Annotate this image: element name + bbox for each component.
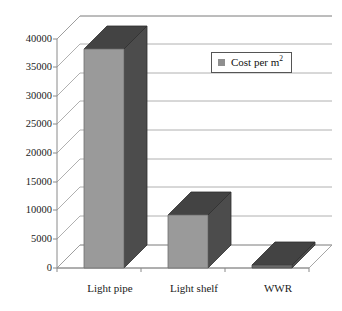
y-tick-label: 20000 xyxy=(10,148,52,159)
y-tick-label: 25000 xyxy=(10,119,52,130)
bar-3d-geometry xyxy=(252,242,315,268)
bar-light-pipe xyxy=(84,49,124,268)
x-tick-label-wwr: WWR xyxy=(264,283,292,294)
bar-light-shelf xyxy=(168,215,208,268)
plot-area: 40000 35000 30000 25000 20000 15000 1000… xyxy=(0,0,342,311)
y-tick-label: 15000 xyxy=(10,177,52,188)
legend: Cost per m2 xyxy=(211,52,292,73)
y-axis-labels: 40000 35000 30000 25000 20000 15000 1000… xyxy=(6,0,52,311)
bar-chart: 40000 35000 30000 25000 20000 15000 1000… xyxy=(0,0,342,311)
depth-connectors xyxy=(57,16,80,268)
y-tick-label: 0 xyxy=(10,263,52,274)
x-tick-label-light-pipe: Light pipe xyxy=(87,283,133,294)
x-tick-label-light-shelf: Light shelf xyxy=(170,283,218,294)
bar-3d-geometry xyxy=(168,192,231,268)
legend-swatch-cost-per-m2 xyxy=(218,59,225,66)
y-tick-label: 40000 xyxy=(10,34,52,45)
bar-wwr xyxy=(252,265,292,268)
y-tick-label: 30000 xyxy=(10,91,52,102)
legend-label-text: Cost per m xyxy=(231,56,279,68)
y-tick-label: 35000 xyxy=(10,62,52,73)
legend-label-superscript: 2 xyxy=(279,54,283,63)
legend-label-cost-per-m2: Cost per m2 xyxy=(231,57,283,68)
y-tick-label: 5000 xyxy=(10,234,52,245)
x-tick-marks xyxy=(57,268,309,272)
bar-3d-geometry xyxy=(84,26,147,268)
y-tick-label: 10000 xyxy=(10,205,52,216)
y-tick-marks xyxy=(53,39,57,268)
